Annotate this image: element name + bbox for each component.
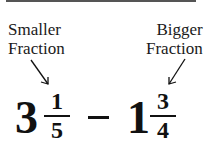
first-whole-number: 3 <box>15 95 38 141</box>
second-denominator: 4 <box>150 118 176 142</box>
first-numerator: 1 <box>44 89 70 113</box>
right-arrow-icon <box>169 59 185 84</box>
second-whole-number: 1 <box>127 95 150 141</box>
left-arrow-icon <box>31 60 48 84</box>
first-denominator: 5 <box>44 118 70 142</box>
second-numerator: 3 <box>150 89 176 113</box>
minus-operator <box>88 116 109 119</box>
